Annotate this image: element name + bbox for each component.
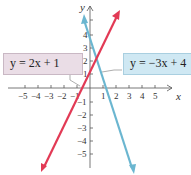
svg-text:−5: −5 (77, 149, 87, 159)
svg-text:−1: −1 (77, 97, 87, 107)
label-red-equation: y = 2x + 1 (3, 53, 83, 75)
blue-label-leader (102, 70, 122, 72)
svg-text:5: 5 (153, 91, 158, 101)
svg-text:−3: −3 (77, 123, 87, 133)
svg-text:1: 1 (101, 91, 106, 101)
svg-text:4: 4 (140, 91, 145, 101)
y-axis-label: y (79, 1, 85, 13)
line-blue (84, 20, 132, 168)
svg-text:−3: −3 (44, 91, 54, 101)
svg-text:−2: −2 (57, 91, 67, 101)
x-tick-labels: −5−4−3 −2−1 123 45 (18, 91, 158, 101)
x-axis-label: x (175, 90, 181, 102)
svg-text:3: 3 (127, 91, 132, 101)
svg-text:−5: −5 (18, 91, 28, 101)
coordinate-plane: −5−4−3 −2−1 123 45 432 1 −1−2−3 −4−5 x y (0, 0, 191, 175)
svg-text:3: 3 (83, 43, 88, 53)
blue-arrow-bottom-icon (129, 164, 136, 174)
label-blue-equation: y = −3x + 4 (123, 53, 191, 75)
svg-text:2: 2 (83, 56, 88, 66)
svg-text:−4: −4 (31, 91, 41, 101)
svg-text:2: 2 (114, 91, 119, 101)
blue-arrow-top-icon (81, 14, 88, 24)
svg-text:−2: −2 (77, 110, 87, 120)
svg-text:−4: −4 (77, 136, 87, 146)
